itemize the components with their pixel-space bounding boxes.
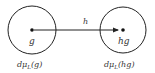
right-measure-arg: (hg) (118, 60, 135, 69)
left-point-dot (30, 28, 34, 32)
left-measure-label: dμL(g) (17, 60, 42, 70)
right-measure-label: dμL(hg) (104, 60, 135, 70)
left-measure-arg: (g) (31, 60, 42, 69)
arrow-label: h (83, 17, 88, 26)
left-point-label: g (29, 36, 35, 46)
diagram-canvas: g hg h dμL(g) dμL(hg) (0, 0, 155, 73)
right-measure-d-mu: dμ (104, 60, 114, 69)
left-measure-d-mu: dμ (17, 60, 27, 69)
right-point-dot (121, 28, 125, 32)
right-point-label: hg (118, 36, 130, 46)
